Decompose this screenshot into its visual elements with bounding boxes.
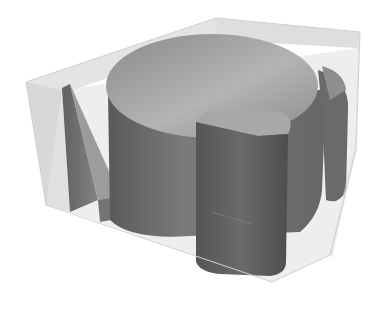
rounded-block — [196, 110, 291, 276]
rendered-3d-scene — [0, 0, 383, 310]
scene-svg — [0, 0, 383, 310]
block-front — [196, 122, 288, 276]
